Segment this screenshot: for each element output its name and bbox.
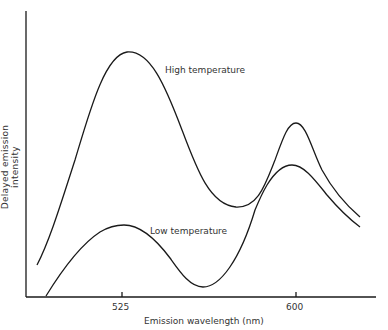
annotation-low-temperature: Low temperature: [150, 226, 227, 236]
x-tick-label-600: 600: [286, 302, 303, 312]
x-axis-label: Emission wavelength (nm): [144, 316, 264, 326]
y-axis-label: Delayed emission intensity: [0, 107, 20, 227]
chart-canvas: [0, 0, 388, 330]
x-tick-label-525: 525: [112, 302, 129, 312]
annotation-high-temperature: High temperature: [165, 65, 245, 75]
